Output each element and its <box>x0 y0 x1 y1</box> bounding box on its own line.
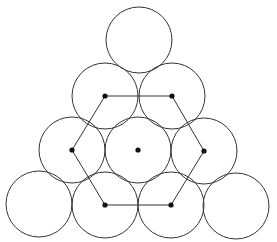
hexagon-vertex-dot <box>168 202 173 207</box>
diagram-canvas <box>0 0 277 242</box>
hexagon-vertex-dot <box>201 148 206 153</box>
circles-group <box>6 7 269 239</box>
packed-circle-7 <box>6 171 72 237</box>
hexagon-vertex-dot <box>169 93 174 98</box>
hexagon-vertex-dot <box>102 202 107 207</box>
packed-circle-10 <box>203 173 269 239</box>
hexagon-vertex-dot <box>69 147 74 152</box>
center-dots-group <box>69 93 206 207</box>
packed-circle-1 <box>106 7 172 73</box>
center-dot <box>135 147 140 152</box>
hexagon-vertex-dot <box>102 93 107 98</box>
close-packing-diagram <box>0 0 277 242</box>
